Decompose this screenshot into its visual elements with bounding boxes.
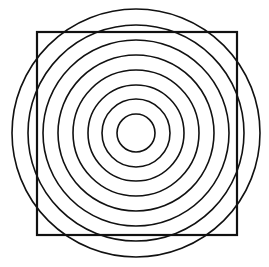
- circle-6: [43, 40, 229, 226]
- circle-4: [73, 70, 199, 196]
- circle-1: [117, 114, 155, 152]
- circle-8: [12, 9, 260, 257]
- circle-7: [28, 25, 244, 241]
- concentric-circles-square-diagram: [0, 0, 269, 267]
- circle-2: [102, 99, 170, 167]
- square: [37, 32, 237, 235]
- circle-5: [58, 55, 214, 211]
